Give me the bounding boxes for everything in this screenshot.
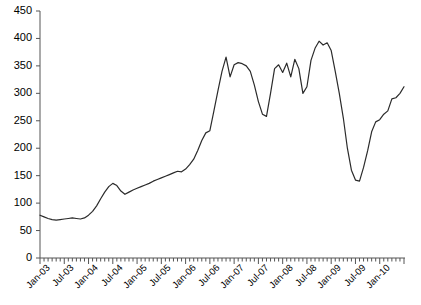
- y-axis-tick-label: 0: [2, 252, 32, 263]
- axes: [36, 11, 405, 264]
- y-axis-tick-label: 350: [2, 60, 32, 71]
- x-axis-ticks: [40, 258, 404, 264]
- y-axis-tick-label: 50: [2, 225, 32, 236]
- chart-container: 050100150200250300350400450 Jan-03Jul-03…: [0, 0, 421, 305]
- y-axis-tick-label: 150: [2, 170, 32, 181]
- y-axis-tick-label: 200: [2, 142, 32, 153]
- y-axis-tick-label: 100: [2, 197, 32, 208]
- y-axis-tick-label: 400: [2, 32, 32, 43]
- y-axis-tick-label: 250: [2, 115, 32, 126]
- line-chart-plot: [0, 0, 421, 305]
- y-axis-ticks: [36, 11, 40, 258]
- y-axis-tick-label: 300: [2, 87, 32, 98]
- y-axis-tick-label: 450: [2, 5, 32, 16]
- data-series-line: [40, 41, 404, 220]
